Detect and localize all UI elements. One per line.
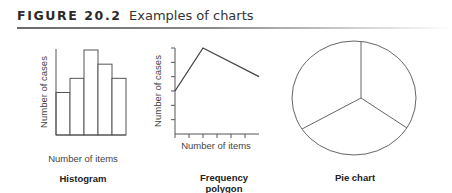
- histogram-bar: [84, 50, 98, 135]
- histogram-bars: [56, 50, 126, 135]
- pie-chart: Pie chart: [292, 41, 416, 183]
- polygon-x-label: Number of items: [181, 140, 251, 151]
- histogram-bar: [70, 78, 84, 135]
- histogram-chart: Number of cases Number of items Histogra…: [38, 49, 126, 184]
- histogram-title: Histogram: [60, 173, 107, 184]
- polygon-y-label: Number of cases: [152, 55, 163, 127]
- charts-canvas: Number of cases Number of items Histogra…: [0, 0, 452, 193]
- polygon-y-ticks: [171, 48, 175, 120]
- histogram-x-label: Number of items: [48, 153, 118, 164]
- polygon-title-line1: Frequency: [200, 172, 249, 183]
- pie-divider-right: [361, 98, 407, 128]
- pie-title: Pie chart: [335, 172, 376, 183]
- polygon-title-line2: polygon: [206, 183, 243, 193]
- histogram-bar: [112, 78, 126, 135]
- histogram-y-label: Number of cases: [38, 56, 49, 128]
- histogram-bar: [56, 93, 70, 136]
- frequency-polygon-chart: Number of cases Number of items Frequenc…: [152, 48, 259, 193]
- histogram-bar: [98, 64, 112, 135]
- polygon-x-ticks: [175, 134, 245, 138]
- pie-outline: [292, 41, 416, 155]
- polygon-line: [175, 48, 259, 91]
- pie-divider-left: [302, 98, 361, 129]
